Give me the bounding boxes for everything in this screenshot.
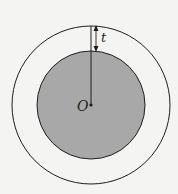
concentric-circles-diagram: t O [0, 0, 178, 194]
center-label: O [77, 98, 89, 114]
center-point [89, 103, 92, 106]
diagram-canvas: t O [0, 0, 178, 194]
thickness-label: t [101, 30, 107, 45]
